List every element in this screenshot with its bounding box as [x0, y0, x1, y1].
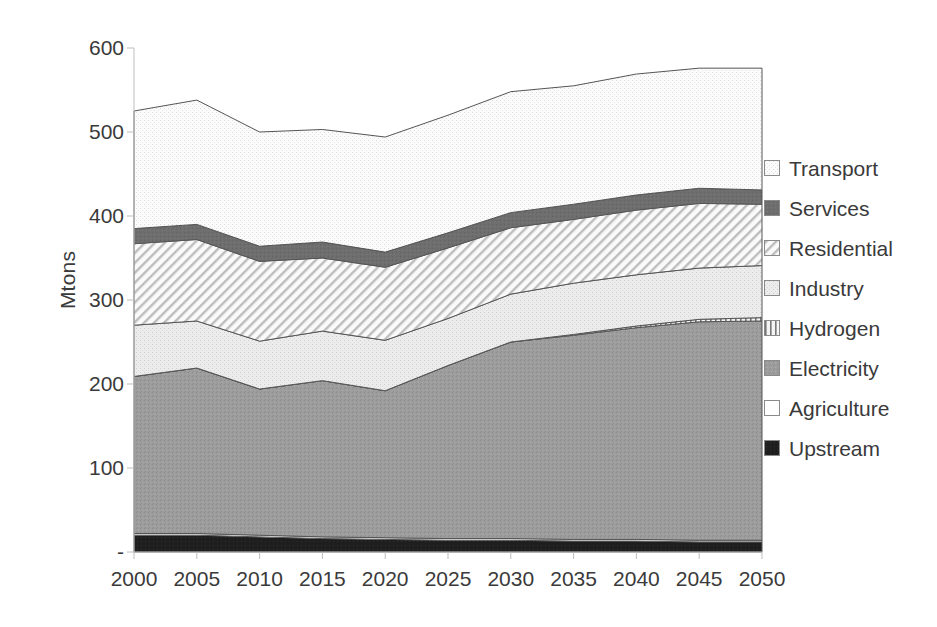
- x-tick-label: 2050: [727, 568, 797, 589]
- x-tick-label: 2040: [601, 568, 671, 589]
- legend-swatch-icon: [764, 240, 780, 256]
- x-tick-label: 2020: [350, 568, 420, 589]
- legend-label: Services: [789, 198, 870, 219]
- x-tick-label: 2045: [664, 568, 734, 589]
- legend-swatch-icon: [764, 200, 780, 216]
- legend-label: Agriculture: [789, 398, 889, 419]
- legend-label: Electricity: [789, 358, 879, 379]
- legend-swatch-icon: [764, 440, 780, 456]
- legend-item-services[interactable]: Services: [764, 188, 934, 228]
- legend-item-agriculture[interactable]: Agriculture: [764, 388, 934, 428]
- x-tick-label: 2010: [225, 568, 295, 589]
- legend-item-hydrogen[interactable]: Hydrogen: [764, 308, 934, 348]
- x-tick-label: 2025: [413, 568, 483, 589]
- legend-label: Industry: [789, 278, 864, 299]
- stacked-area-chart: Mtons -100200300400500600 20002005201020…: [0, 0, 937, 627]
- legend-item-upstream[interactable]: Upstream: [764, 428, 934, 468]
- legend-swatch-icon: [764, 400, 780, 416]
- legend-swatch-icon: [764, 320, 780, 336]
- x-tick-label: 2005: [162, 568, 232, 589]
- legend-item-residential[interactable]: Residential: [764, 228, 934, 268]
- legend-label: Hydrogen: [789, 318, 880, 339]
- legend: TransportServicesResidentialIndustryHydr…: [764, 148, 934, 468]
- x-tick-label: 2030: [476, 568, 546, 589]
- legend-item-electricity[interactable]: Electricity: [764, 348, 934, 388]
- x-tick-label: 2015: [287, 568, 357, 589]
- legend-swatch-icon: [764, 360, 780, 376]
- legend-swatch-icon: [764, 280, 780, 296]
- legend-item-transport[interactable]: Transport: [764, 148, 934, 188]
- legend-label: Upstream: [789, 438, 880, 459]
- legend-label: Transport: [789, 158, 878, 179]
- legend-swatch-icon: [764, 160, 780, 176]
- legend-label: Residential: [789, 238, 893, 259]
- x-tick-label: 2000: [99, 568, 169, 589]
- legend-item-industry[interactable]: Industry: [764, 268, 934, 308]
- x-tick-label: 2035: [539, 568, 609, 589]
